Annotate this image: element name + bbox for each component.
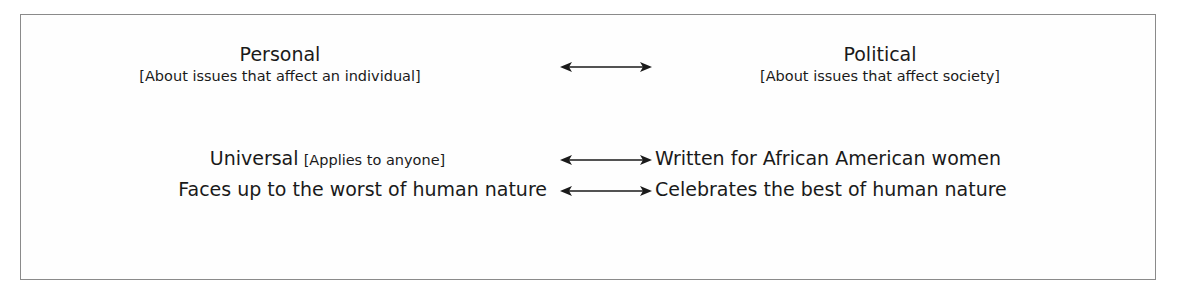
row-2-right-title: Written for African American women: [655, 147, 1001, 169]
row-3-right: Celebrates the best of human nature: [655, 177, 1007, 201]
row-3-right-title: Celebrates the best of human nature: [655, 178, 1007, 200]
double-arrow-icon: [558, 153, 654, 167]
double-arrow-icon: [558, 184, 654, 198]
row-3-left: Faces up to the worst of human nature: [0, 177, 547, 201]
row-1-right-subtitle: [About issues that affect society]: [600, 66, 1160, 86]
row-2-left-title: Universal: [210, 147, 299, 169]
row-1-left-subtitle: [About issues that affect an individual]: [0, 66, 560, 86]
row-2-left: Universal [Applies to anyone]: [0, 146, 540, 170]
row-2-left-subtitle: [Applies to anyone]: [304, 152, 446, 168]
row-2-right: Written for African American women: [655, 146, 1001, 170]
row-1-left-title: Personal: [0, 42, 560, 66]
row-1-left: Personal [About issues that affect an in…: [0, 42, 560, 86]
row-3-left-title: Faces up to the worst of human nature: [178, 178, 547, 200]
row-1-right-title: Political: [600, 42, 1160, 66]
row-1-right: Political [About issues that affect soci…: [600, 42, 1160, 86]
